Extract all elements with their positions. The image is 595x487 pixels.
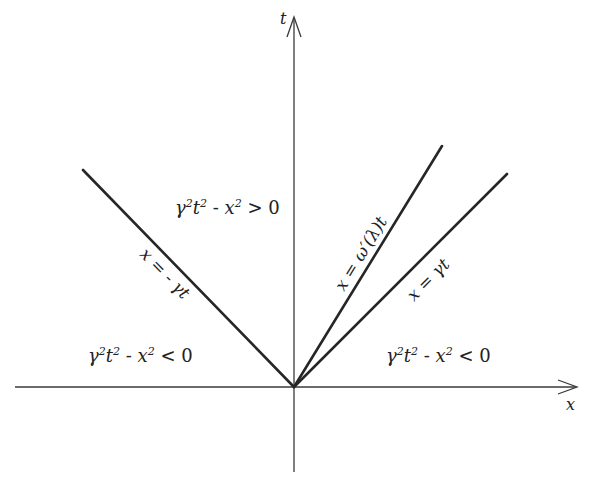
group-velocity-line-label: x = ω′(λ)t: [330, 213, 391, 295]
t-axis-label: t: [280, 9, 287, 28]
region-label-lower-right: γ2t2 - x2 < 0: [386, 345, 491, 366]
left-light-cone-label: x = - γt: [136, 244, 194, 303]
x-axis-label: x: [566, 395, 575, 414]
region-label-upper: γ2t2 - x2 > 0: [175, 197, 280, 218]
region-label-lower-left: γ2t2 - x2 < 0: [88, 345, 193, 366]
light-cone-diagram: x t γ2t2 - x2 > 0 γ2t2 - x2 < 0 γ2t2 - x…: [0, 0, 595, 487]
right-light-cone-label: x = γt: [403, 254, 454, 305]
t-axis: t: [280, 9, 301, 472]
